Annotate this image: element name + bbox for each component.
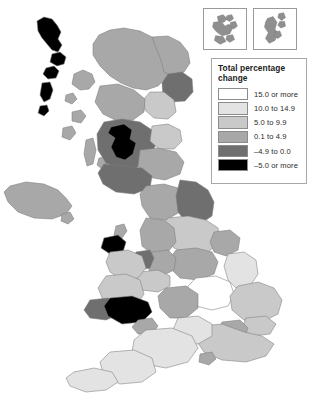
legend-item-0[interactable]: 15.0 or more xyxy=(218,87,301,101)
region-outer-hebrides-harris[interactable] xyxy=(43,66,59,79)
region-east-anglia[interactable] xyxy=(230,282,282,322)
region-ni-coast-detail[interactable] xyxy=(61,212,74,224)
legend-item-4[interactable]: –4.9 to 0.0 xyxy=(218,144,301,158)
legend-swatch-5 xyxy=(218,159,248,171)
legend-swatch-1 xyxy=(218,102,248,114)
legend-label-4: –4.9 to 0.0 xyxy=(254,147,291,156)
uk-choropleth-figure: Total percentage change 15.0 or more 10.… xyxy=(0,0,312,410)
inset-orkney-map xyxy=(204,9,246,49)
legend-title-line1: Total percentage xyxy=(218,63,285,73)
region-small-isles[interactable] xyxy=(65,93,77,104)
region-kintyre[interactable] xyxy=(84,138,96,166)
region-lochaber[interactable] xyxy=(95,84,145,121)
region-islay-jura[interactable] xyxy=(62,126,76,140)
inset-orkney-islands[interactable] xyxy=(203,8,247,50)
region-yorkshire[interactable] xyxy=(170,248,218,280)
legend-swatch-4 xyxy=(218,145,248,157)
region-northern-ireland[interactable] xyxy=(4,182,72,219)
legend-swatch-0 xyxy=(218,88,248,100)
region-edinburgh-lothian[interactable] xyxy=(150,124,182,149)
inset-shetland-map xyxy=(254,9,296,49)
legend-label-3: 0.1 to 4.9 xyxy=(254,132,286,141)
region-east-riding[interactable] xyxy=(210,230,240,256)
legend-label-2: 5.0 to 9.9 xyxy=(254,118,286,127)
region-outer-hebrides-barra[interactable] xyxy=(38,105,49,116)
legend-label-5: –5.0 or more xyxy=(254,161,298,170)
legend-swatch-2 xyxy=(218,116,248,128)
legend-swatch-3 xyxy=(218,131,248,143)
region-cornwall[interactable] xyxy=(66,368,118,392)
region-west-midlands[interactable] xyxy=(158,286,198,318)
region-outer-hebrides-uist[interactable] xyxy=(40,82,53,102)
legend-item-2[interactable]: 5.0 to 9.9 xyxy=(218,116,301,130)
map-legend: Total percentage change 15.0 or more 10.… xyxy=(211,58,307,184)
legend-item-1[interactable]: 10.0 to 14.9 xyxy=(218,101,301,115)
legend-label-1: 10.0 to 14.9 xyxy=(254,104,295,113)
legend-title: Total percentage change xyxy=(218,64,301,83)
region-mull[interactable] xyxy=(72,110,86,123)
legend-label-0: 15.0 or more xyxy=(254,90,298,99)
legend-item-5[interactable]: –5.0 or more xyxy=(218,158,301,172)
legend-title-line2: change xyxy=(218,73,248,83)
inset-shetland-islands[interactable] xyxy=(253,8,297,50)
legend-item-3[interactable]: 0.1 to 4.9 xyxy=(218,130,301,144)
region-outer-hebrides-lewis[interactable] xyxy=(50,52,66,66)
region-outer-hebrides[interactable] xyxy=(37,17,62,52)
region-skye[interactable] xyxy=(72,70,95,90)
